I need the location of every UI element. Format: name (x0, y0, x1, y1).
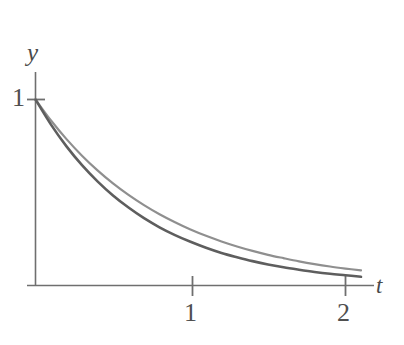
x-tick-label-1: 1 (184, 300, 197, 326)
data-curve-lower (36, 100, 362, 277)
figure-root: y t 1 1 2 (0, 0, 404, 345)
plot-canvas (0, 0, 404, 345)
y-tick-label-1: 1 (12, 85, 25, 111)
x-axis-title: t (376, 274, 382, 297)
y-axis-title: y (27, 40, 38, 65)
x-tick-label-2: 2 (337, 300, 350, 326)
